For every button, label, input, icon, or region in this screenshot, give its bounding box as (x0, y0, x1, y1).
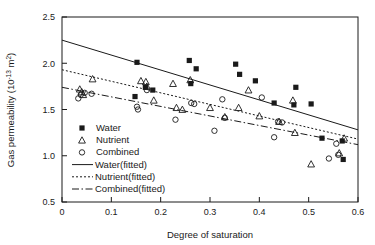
marker-water (272, 100, 277, 105)
marker-water (194, 66, 199, 71)
x-tick-label: 0.4 (253, 207, 266, 217)
marker-water (79, 125, 84, 130)
x-tick-label: 0.3 (204, 207, 217, 217)
marker-water (150, 87, 155, 92)
legend-label: Nutrient(fitted) (95, 171, 155, 182)
marker-water (233, 62, 238, 67)
marker-water (188, 81, 193, 86)
x-tick-label: 0.6 (352, 207, 365, 217)
x-axis-title: Degree of saturation (167, 229, 253, 240)
y-tick-label: 0.5 (42, 197, 55, 207)
x-tick-label: 0.5 (302, 207, 315, 217)
y-tick-label: 2.5 (42, 12, 55, 22)
y-axis-title-close-paren: ) (5, 53, 16, 56)
y-axis-title-unit: m (5, 60, 16, 71)
chart-background (0, 0, 375, 245)
legend-label: Combined(fitted) (95, 183, 165, 194)
x-tick-label: 0 (59, 207, 64, 217)
gas-permeability-scatter-chart: 0.51.01.52.02.5 00.10.20.30.40.50.6 Wate… (0, 0, 375, 245)
y-axis-title: Gas permeability (10-13 m2) (5, 53, 16, 167)
legend-label: Water (96, 122, 121, 133)
y-axis-title-exponent: -13 (5, 70, 12, 80)
marker-water (309, 101, 314, 106)
legend-label: Combined (96, 146, 139, 157)
legend-label: Water(fitted) (95, 159, 147, 170)
y-tick-label: 2.0 (42, 59, 55, 69)
marker-water (341, 157, 346, 162)
y-tick-label: 1.5 (42, 105, 55, 115)
y-tick-label: 1.0 (42, 151, 55, 161)
x-tick-label: 0.1 (105, 207, 118, 217)
x-tick-label: 0.2 (154, 207, 167, 217)
y-axis-title-main: Gas permeability (10 (5, 80, 16, 168)
marker-water (237, 72, 242, 77)
marker-water (293, 85, 298, 90)
marker-water (132, 94, 137, 99)
marker-water (319, 136, 324, 141)
marker-water (187, 58, 192, 63)
marker-water (253, 78, 258, 83)
marker-water (134, 60, 139, 65)
legend-label: Nutrient (96, 134, 130, 145)
